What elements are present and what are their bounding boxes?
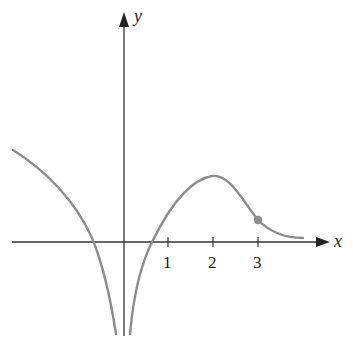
x-tick-label-2: 2 xyxy=(208,253,217,272)
x-axis-arrow-icon xyxy=(316,237,330,247)
y-axis-label: y xyxy=(132,6,142,26)
curve-right-branch xyxy=(130,176,303,334)
y-axis-arrow-icon xyxy=(119,12,129,27)
x-tick-label-1: 1 xyxy=(163,253,172,272)
x-axis-label: x xyxy=(333,231,342,251)
marked-point xyxy=(254,216,262,224)
function-graph: 1 2 3 x y xyxy=(0,0,353,341)
x-tick-label-3: 3 xyxy=(253,253,262,272)
